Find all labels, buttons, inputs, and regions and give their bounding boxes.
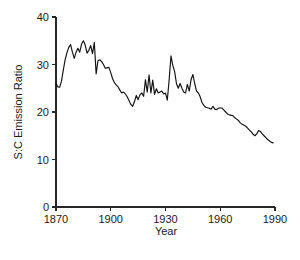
x-tick-label-1870: 1870 (44, 213, 68, 225)
x-tick-label-1960: 1960 (208, 213, 232, 225)
y-tick-labels: 010203040 (37, 11, 49, 213)
x-axis-title: Year (155, 225, 178, 237)
y-tick-label-30: 30 (37, 59, 49, 71)
x-tick-labels: 18701900193019601990 (44, 213, 287, 225)
chart-series-lines (56, 41, 273, 143)
series-line-0 (56, 41, 273, 143)
axis-spine (56, 17, 275, 207)
y-axis-title: S:C Emission Ratio (12, 65, 24, 160)
y-tick-label-20: 20 (37, 106, 49, 118)
y-tick-label-40: 40 (37, 11, 49, 23)
chart-figure: 18701900193019601990 010203040 Year S:C … (0, 0, 300, 260)
line-chart-plot: 18701900193019601990 010203040 Year S:C … (0, 0, 300, 260)
y-tick-label-10: 10 (37, 154, 49, 166)
x-tick-label-1990: 1990 (263, 213, 287, 225)
x-tick-label-1900: 1900 (99, 213, 123, 225)
chart-axes (56, 17, 275, 207)
y-tick-label-0: 0 (43, 201, 49, 213)
x-tick-label-1930: 1930 (153, 213, 177, 225)
